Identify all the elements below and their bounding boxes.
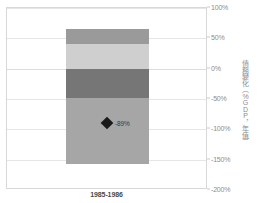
net-change-marker-label: -89% — [115, 119, 130, 126]
y-tick-mark-100% — [207, 7, 210, 8]
y-tick-mark--150% — [207, 158, 210, 159]
y-tick-label-50%: 50% — [211, 34, 224, 41]
y-tick-label--200%: -200% — [211, 186, 230, 193]
chart-container: -89% 100%50%0%-50%-100%-150%-200% 債務變化（%… — [0, 0, 258, 203]
stacked-bar-1985-1986[interactable] — [66, 29, 149, 164]
gridline-100% — [7, 8, 206, 9]
bar-segment-2[interactable] — [66, 44, 149, 68]
y-tick-mark-0% — [207, 67, 210, 68]
y-axis: 100%50%0%-50%-100%-150%-200% — [207, 0, 241, 203]
plot-area: -89% — [6, 7, 207, 189]
y-tick-label-100%: 100% — [211, 4, 228, 11]
bar-segment-3[interactable] — [66, 69, 149, 98]
y-tick-label-0%: 0% — [211, 64, 221, 71]
y-tick-label--100%: -100% — [211, 125, 230, 132]
y-tick-mark--100% — [207, 128, 210, 129]
y-tick-label--50%: -50% — [211, 95, 227, 102]
y-tick-mark--50% — [207, 98, 210, 99]
y-tick-label--150%: -150% — [211, 155, 230, 162]
y-axis-title: 債務變化（%GDP，年值） — [238, 50, 252, 154]
y-tick-mark-50% — [207, 37, 210, 38]
y-axis-title-text: 債務變化（%GDP，年值） — [240, 60, 250, 145]
bar-segment-4[interactable] — [66, 98, 149, 165]
bar-segment-1[interactable] — [66, 29, 149, 44]
x-axis-category-label: 1985-1986 — [6, 191, 207, 198]
y-tick-mark--200% — [207, 189, 210, 190]
